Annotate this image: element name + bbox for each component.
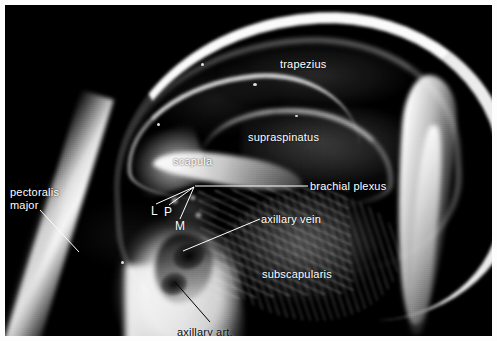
mri-scan-image <box>5 5 492 336</box>
label-axillary-artery: axillary art. <box>177 326 233 336</box>
marker-medial-cord: M <box>175 220 185 232</box>
label-pectoralis-major-line2: major <box>10 199 39 212</box>
marker-posterior-cord: P <box>164 206 172 218</box>
marker-lateral-cord: L <box>151 205 158 217</box>
label-subscapularis: subscapularis <box>262 268 332 281</box>
film-grain <box>5 5 492 336</box>
label-trapezius: trapezius <box>280 58 326 71</box>
label-scapula: scapula <box>173 155 212 168</box>
label-pectoralis-major-line1: pectoralis <box>10 186 59 199</box>
scan-frame: trapezius supraspinatus scapula brachial… <box>5 5 492 336</box>
label-supraspinatus: supraspinatus <box>248 131 319 144</box>
label-axillary-vein: axillary vein <box>261 213 321 226</box>
label-brachial-plexus: brachial plexus <box>310 180 386 193</box>
mri-figure: trapezius supraspinatus scapula brachial… <box>0 0 497 341</box>
